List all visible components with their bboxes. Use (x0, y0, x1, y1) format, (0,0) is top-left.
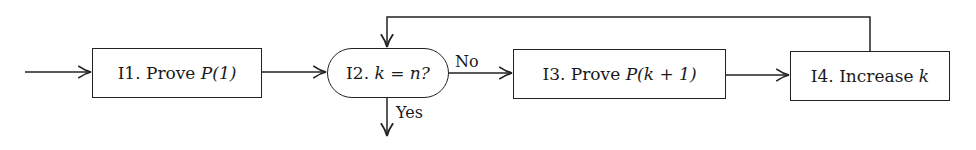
loop-arrow-i4-to-i2 (387, 17, 870, 51)
node-i4-increase-k: I4. Increase k (790, 51, 950, 101)
node-i1-text: Prove (146, 63, 195, 83)
node-i1-math: P(1) (201, 63, 237, 83)
node-i1-prove-p1: I1. Prove P(1) (92, 48, 262, 98)
node-i2-math: k = n? (374, 63, 429, 83)
node-i3-math: P(k + 1) (626, 64, 697, 84)
node-i3-prefix: I3. (542, 64, 565, 84)
node-i4-prefix: I4. (811, 66, 834, 86)
node-i4-math: k (919, 66, 929, 86)
node-i4-text: Increase (839, 66, 913, 86)
node-i2-prefix: I2. (346, 63, 369, 83)
node-i1-prefix: I1. (118, 63, 141, 83)
node-i2-decision: I2. k = n? (327, 48, 449, 98)
edge-label-no: No (455, 52, 479, 71)
edge-label-yes: Yes (396, 103, 423, 122)
node-i3-text: Prove (571, 64, 620, 84)
node-i3-prove-pk1: I3. Prove P(k + 1) (513, 49, 726, 99)
